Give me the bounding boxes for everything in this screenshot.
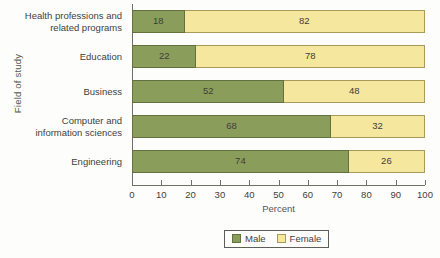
x-axis-tick-label: 30 [205,189,235,200]
category-label: Health professions andrelated programs [0,10,122,33]
x-axis-tick-label: 70 [322,189,352,200]
bar-row: 2278 [132,45,425,68]
x-axis-tick [425,180,426,185]
x-axis-tick [161,180,162,185]
category-label: Computer andinformation sciences [0,115,122,138]
plot-area: 18822278524868327426 [132,4,425,185]
bar-segment-male: 22 [132,45,196,68]
bar-segment-male: 52 [132,80,284,103]
bars-layer: 18822278524868327426 [132,4,425,185]
x-axis: Percent 0102030405060708090100 [132,185,425,225]
x-axis-tick [308,180,309,185]
x-axis-tick-label: 0 [117,189,147,200]
legend-item-female: Female [277,233,322,244]
chart-legend: MaleFemale [224,230,329,248]
category-label-line: Business [0,86,122,98]
bar-value-label: 82 [299,16,310,26]
x-axis-tick-label: 90 [381,189,411,200]
x-axis-tick-label: 80 [351,189,381,200]
category-label-line: Education [0,51,122,63]
bar-value-label: 52 [203,86,214,96]
category-label-line: information sciences [0,127,122,139]
bar-segment-female: 82 [185,10,425,33]
x-axis-tick-label: 20 [176,189,206,200]
bar-value-label: 18 [153,16,164,26]
category-label: Business [0,86,122,98]
bar-row: 7426 [132,150,425,173]
bar-row: 6832 [132,115,425,138]
legend-item-male: Male [232,233,266,244]
category-label-line: Health professions and [0,10,122,22]
bar-segment-female: 78 [196,45,425,68]
legend-item-label: Male [245,233,266,244]
x-axis-tick-label: 40 [234,189,264,200]
x-axis-tick [132,180,133,185]
x-axis-title: Percent [132,203,425,214]
male-color-swatch [232,234,241,243]
x-axis-tick-label: 50 [264,189,294,200]
x-axis-tick-label: 10 [146,189,176,200]
bar-value-label: 26 [381,156,392,166]
bar-segment-male: 68 [132,115,331,138]
bar-value-label: 78 [305,51,316,61]
legend-item-label: Female [290,233,322,244]
bar-row: 5248 [132,80,425,103]
bar-value-label: 32 [372,121,383,131]
bar-value-label: 48 [349,86,360,96]
x-axis-tick-label: 60 [293,189,323,200]
category-axis-labels: Health professions andrelated programsEd… [0,4,128,185]
female-color-swatch [277,234,286,243]
bar-row: 1882 [132,10,425,33]
bar-segment-female: 48 [284,80,425,103]
x-axis-tick [396,180,397,185]
x-axis-tick [191,180,192,185]
bar-value-label: 22 [159,51,170,61]
x-axis-line [132,185,425,186]
bar-segment-female: 26 [349,150,425,173]
x-axis-tick [366,180,367,185]
x-axis-tick-label: 100 [410,189,440,200]
bar-segment-male: 18 [132,10,185,33]
category-label-line: Computer and [0,115,122,127]
x-axis-tick [279,180,280,185]
bar-segment-female: 32 [331,115,425,138]
category-label: Education [0,51,122,63]
bar-value-label: 68 [226,121,237,131]
category-label: Engineering [0,156,122,168]
bar-value-label: 74 [235,156,246,166]
x-axis-tick [249,180,250,185]
x-axis-tick [220,180,221,185]
x-axis-tick [337,180,338,185]
category-label-line: related programs [0,22,122,34]
stacked-bar-chart: Field of study Health professions andrel… [0,0,440,258]
bar-segment-male: 74 [132,150,349,173]
category-label-line: Engineering [0,156,122,168]
